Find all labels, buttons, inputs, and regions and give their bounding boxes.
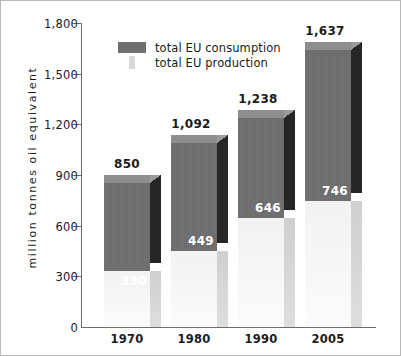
legend-label-production: total EU production: [155, 56, 268, 70]
consumption-bar-top-bevel-2005: [351, 42, 362, 50]
x-tick-label-1990: 1990: [231, 332, 291, 346]
production-value-label-1990: 646: [241, 201, 281, 215]
consumption-bar-side-2005: [351, 42, 362, 193]
production-value-label-1970: 330: [107, 274, 147, 288]
production-bar-1980: [171, 251, 217, 327]
production-bar-side-2005: [351, 201, 362, 327]
total-value-label-1970: 850: [82, 157, 172, 171]
consumption-bar-top-bevel-1970: [150, 175, 161, 183]
production-bar-2005: [305, 201, 351, 327]
consumption-bar-side-1970: [150, 175, 161, 263]
consumption-bar-top-1970: [104, 175, 150, 183]
production-bar-side-1980: [217, 251, 228, 327]
total-value-label-2005: 1,637: [280, 24, 370, 38]
production-bar-side-1990: [284, 218, 295, 327]
y-tick-label-300: 300: [18, 270, 78, 284]
total-value-label-1990: 1,238: [213, 92, 303, 106]
consumption-bar-top-bevel-1980: [217, 135, 228, 143]
total-value-label-1980: 1,092: [146, 117, 236, 131]
production-bar-side-1970: [150, 271, 161, 327]
consumption-bar-2005: [305, 49, 351, 201]
bar-chart: million tonnes oil equivalent 1,800 1,50…: [1, 1, 401, 356]
y-tick-label-1500: 1,500: [18, 68, 78, 82]
y-tick-label-0: 0: [18, 321, 78, 335]
consumption-bar-top-2005: [305, 42, 351, 50]
chart-frame: million tonnes oil equivalent 1,800 1,50…: [0, 0, 401, 356]
x-tick-label-1970: 1970: [97, 332, 157, 346]
x-axis-line: [81, 327, 376, 328]
x-tick-label-2005: 2005: [298, 332, 358, 346]
x-tick-label-1980: 1980: [164, 332, 224, 346]
y-axis-line: [81, 23, 82, 328]
consumption-bar-1970: [104, 182, 150, 271]
y-tick-label-1200: 1,200: [18, 118, 78, 132]
legend-swatch-consumption-icon: [118, 42, 146, 53]
legend-label-consumption: total EU consumption: [155, 41, 281, 55]
y-tick-label-900: 900: [18, 169, 78, 183]
production-value-label-2005: 746: [308, 184, 348, 198]
consumption-bar-side-1990: [284, 110, 295, 210]
legend-swatch-production-icon: [129, 56, 135, 69]
production-bar-1990: [238, 218, 284, 327]
consumption-bar-side-1980: [217, 135, 228, 243]
consumption-bar-top-bevel-1990: [284, 110, 295, 118]
y-tick-label-600: 600: [18, 220, 78, 234]
y-tick-label-1800: 1,800: [18, 17, 78, 31]
consumption-bar-top-1980: [171, 135, 217, 143]
production-value-label-1980: 449: [174, 234, 214, 248]
consumption-bar-top-1990: [238, 110, 284, 118]
